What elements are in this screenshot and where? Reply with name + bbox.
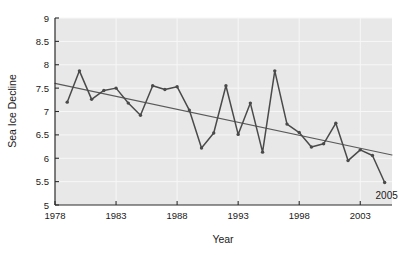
x-tick-label: 2003 — [350, 210, 371, 221]
y-tick-label: 5 — [44, 200, 49, 211]
data-point-marker — [261, 150, 264, 153]
data-point-marker — [163, 88, 166, 91]
y-tick-label: 6.5 — [36, 129, 49, 140]
data-point-marker — [383, 181, 386, 184]
data-point-marker — [346, 159, 349, 162]
y-tick-label: 5.5 — [36, 176, 49, 187]
data-point-marker — [212, 131, 215, 134]
data-point-marker — [90, 98, 93, 101]
data-point-marker — [285, 122, 288, 125]
data-point-marker — [175, 85, 178, 88]
data-point-marker — [66, 100, 69, 103]
data-point-marker — [273, 69, 276, 72]
data-point-marker — [371, 154, 374, 157]
annotation-group: 2005 — [376, 190, 399, 201]
y-tick-label: 7 — [44, 106, 49, 117]
data-point-marker — [249, 101, 252, 104]
data-point-marker — [310, 145, 313, 148]
data-point-marker — [151, 84, 154, 87]
y-tick-label: 7.5 — [36, 83, 49, 94]
y-tick-label: 8.5 — [36, 36, 49, 47]
data-point-marker — [359, 148, 362, 151]
data-point-marker — [78, 69, 81, 72]
data-point-marker — [334, 121, 337, 124]
data-point-marker — [127, 101, 130, 104]
y-tick-label: 8 — [44, 59, 49, 70]
data-point-marker — [102, 89, 105, 92]
x-tick-label: 1978 — [44, 210, 65, 221]
data-point-marker — [200, 146, 203, 149]
data-point-marker — [188, 108, 191, 111]
x-tick-label: 1998 — [289, 210, 310, 221]
sea-ice-decline-line-chart: 2005 55.566.577.588.59 19781983198819931… — [0, 0, 415, 255]
data-point-marker — [298, 131, 301, 134]
y-axis-label: Sea Ice Decline — [6, 74, 18, 148]
x-axis-label: Year — [212, 233, 234, 245]
data-point-marker — [224, 84, 227, 87]
data-point-marker — [139, 114, 142, 117]
annotation-year-label: 2005 — [376, 190, 399, 201]
chart-figure: 2005 55.566.577.588.59 19781983198819931… — [0, 0, 415, 255]
data-point-marker — [114, 86, 117, 89]
y-tick-label: 9 — [44, 13, 49, 24]
data-point-marker — [322, 142, 325, 145]
data-point-marker — [236, 133, 239, 136]
x-tick-label: 1993 — [228, 210, 249, 221]
x-tick-label: 1983 — [105, 210, 126, 221]
x-tick-label: 1988 — [167, 210, 188, 221]
y-tick-label: 6 — [44, 153, 49, 164]
